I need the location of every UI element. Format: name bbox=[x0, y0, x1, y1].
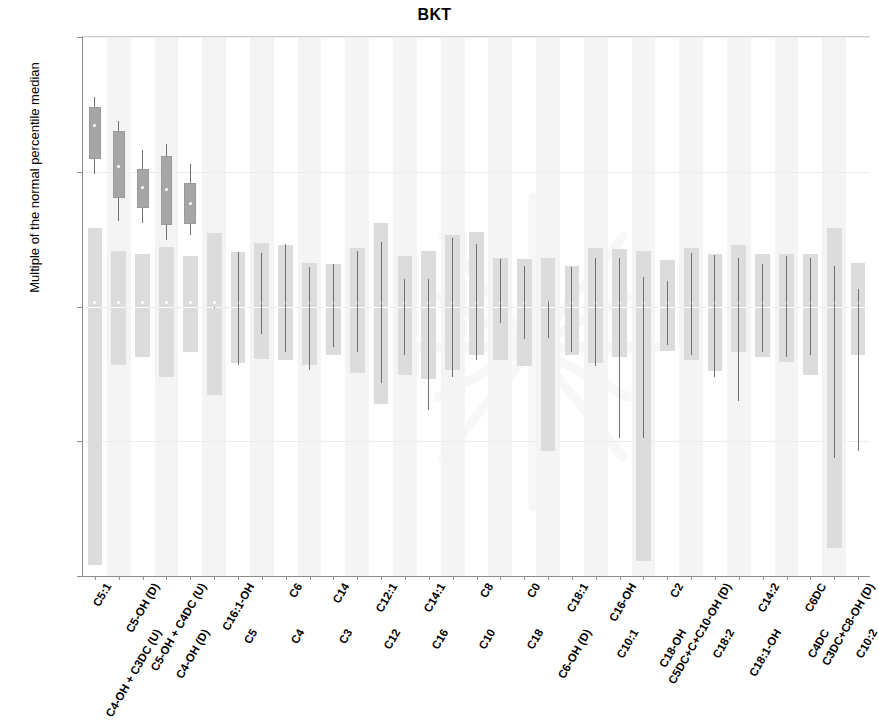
reference-range-band bbox=[183, 256, 198, 351]
x-axis-tick-label: C0 bbox=[525, 581, 543, 600]
band-mean-marker bbox=[189, 301, 192, 304]
band-median-line bbox=[135, 307, 150, 308]
whisker-line bbox=[357, 251, 358, 352]
whisker-line bbox=[738, 258, 739, 401]
whisker-line bbox=[285, 244, 286, 352]
x-axis-tick-label: C14:1 bbox=[421, 581, 447, 614]
x-axis-tick-label: C12 bbox=[381, 627, 402, 651]
x-axis-tick-label: C6-OH (D) bbox=[555, 627, 593, 681]
x-axis-tick-label: C10:1 bbox=[615, 627, 641, 660]
x-axis-tick-label: C6 bbox=[286, 581, 304, 600]
y-tick-mark bbox=[77, 441, 83, 442]
band-mean-marker bbox=[165, 301, 168, 304]
whisker-line bbox=[571, 267, 572, 352]
y-gridline bbox=[83, 37, 870, 38]
whisker-line bbox=[524, 266, 525, 339]
y-axis-label: Multiple of the normal percentile median bbox=[27, 8, 42, 348]
x-axis-tick-label: C5 bbox=[241, 627, 259, 646]
band-median-line bbox=[183, 307, 198, 308]
band-mean-marker bbox=[117, 301, 120, 304]
x-axis-tick-label: C6DC bbox=[803, 581, 829, 614]
whisker-line bbox=[476, 244, 477, 360]
band-median-line bbox=[159, 307, 174, 308]
x-axis-tick-label: C5-OH (D) bbox=[123, 581, 161, 635]
x-axis-tick-label: C3 bbox=[337, 627, 355, 646]
whisker-line bbox=[691, 253, 692, 355]
plot-area: 100.0010.001.000.100.01 bbox=[82, 36, 870, 577]
x-axis-tick-label: C18:1-OH bbox=[747, 627, 784, 678]
x-axis-tick-label: C4 bbox=[289, 627, 307, 646]
y-tick-mark bbox=[77, 172, 83, 173]
whisker-line bbox=[381, 242, 382, 383]
whisker-line bbox=[667, 281, 668, 345]
whisker-line bbox=[500, 259, 501, 323]
whisker-line bbox=[428, 279, 429, 410]
whisker-line bbox=[762, 264, 763, 351]
y-tick-mark bbox=[77, 37, 83, 38]
whisker-line bbox=[714, 255, 715, 377]
whisker-line bbox=[810, 258, 811, 355]
box-median-marker bbox=[165, 188, 168, 191]
y-tick-mark bbox=[77, 307, 83, 308]
x-axis-tick-label: C10 bbox=[477, 627, 498, 651]
x-axis-tick-label: C18:1 bbox=[564, 581, 590, 614]
x-axis-tick-label: C12:1 bbox=[373, 581, 399, 614]
x-axis-tick-label: C14 bbox=[331, 581, 352, 605]
x-axis-labels: C5:1C4-OH + C3DC (U)C5-OH (D)C4-OH (D)C5… bbox=[0, 577, 869, 728]
reference-range-band bbox=[207, 233, 222, 395]
whisker-line bbox=[238, 252, 239, 365]
whisker-line bbox=[452, 238, 453, 377]
x-axis-tick-label: C3DC+C8-OH (D) bbox=[820, 581, 877, 668]
reference-range-band bbox=[88, 228, 103, 565]
band-median-line bbox=[88, 307, 103, 308]
whisker-line bbox=[643, 277, 644, 438]
x-axis-tick-label: C5:1 bbox=[90, 581, 113, 609]
box-plot-box bbox=[89, 107, 101, 158]
whisker-line bbox=[595, 258, 596, 367]
x-axis-tick-label: C10:2 bbox=[853, 627, 879, 660]
band-mean-marker bbox=[213, 301, 216, 304]
whisker-line bbox=[309, 267, 310, 369]
x-axis-tick-label: C14:2 bbox=[755, 581, 781, 614]
plot-inner bbox=[83, 37, 870, 576]
x-axis-tick-label: C8 bbox=[477, 581, 495, 600]
x-axis-tick-label: C18 bbox=[524, 627, 545, 651]
x-axis-tick-label: C16:1-OH bbox=[220, 581, 257, 632]
y-gridline bbox=[83, 172, 870, 173]
x-axis-tick-label: C18:2 bbox=[710, 627, 736, 660]
whisker-line bbox=[214, 307, 215, 308]
chart-title: BKT bbox=[0, 6, 869, 24]
whisker-line bbox=[548, 301, 549, 338]
whisker-line bbox=[834, 266, 835, 458]
box-median-marker bbox=[189, 202, 192, 205]
whisker-line bbox=[858, 289, 859, 451]
whisker-line bbox=[333, 264, 334, 347]
band-mean-marker bbox=[141, 301, 144, 304]
reference-range-band bbox=[159, 247, 174, 377]
whisker-line bbox=[404, 279, 405, 355]
reference-range-band bbox=[111, 251, 126, 365]
y-gridline bbox=[83, 441, 870, 442]
box-median-marker bbox=[117, 165, 120, 168]
x-axis-tick-label: C16 bbox=[429, 627, 450, 651]
whisker-line bbox=[261, 253, 262, 334]
whisker-line bbox=[786, 256, 787, 357]
x-axis-tick-label: C2 bbox=[668, 581, 686, 600]
whisker-line bbox=[619, 258, 620, 439]
reference-range-band bbox=[541, 258, 556, 451]
band-median-line bbox=[111, 307, 126, 308]
x-axis-tick-label: C16-OH bbox=[606, 581, 637, 624]
box-plot-box bbox=[161, 156, 173, 225]
x-axis-tick-label: C4-OH + C3DC (U) bbox=[104, 627, 164, 719]
